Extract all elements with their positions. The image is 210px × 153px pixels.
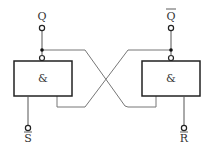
terminal-s-icon	[25, 125, 30, 130]
terminal-qbar-icon	[168, 25, 173, 30]
sr-latch-diagram: & Q S & Q R	[0, 0, 210, 153]
left-nand-gate: &	[14, 56, 72, 97]
input-label-s: S	[24, 132, 32, 145]
gate-symbol-right: &	[166, 72, 176, 85]
output-label-q: Q	[37, 10, 46, 23]
inverter-bubble-icon	[169, 56, 174, 61]
output-label-qbar: Q	[166, 10, 175, 23]
input-label-r: R	[180, 132, 189, 145]
inverter-bubble-icon	[40, 56, 45, 61]
junction-dot-icon	[169, 48, 173, 52]
junction-dot-icon	[40, 48, 44, 52]
right-nand-gate: &	[142, 56, 200, 97]
gate-symbol-left: &	[38, 72, 48, 85]
terminal-r-icon	[181, 125, 186, 130]
terminal-q-icon	[39, 25, 44, 30]
